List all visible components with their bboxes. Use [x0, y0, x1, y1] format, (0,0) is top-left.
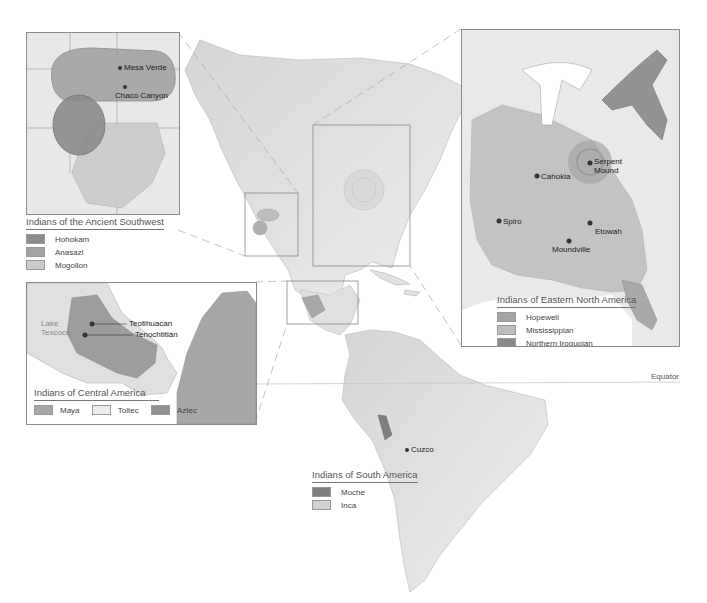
- site-serpent-mound: SerpentMound: [594, 157, 622, 175]
- equator-label: Equator: [651, 372, 679, 381]
- site-mesa-verde: Mesa Verde: [124, 63, 167, 72]
- legend-item-inca: Inca: [312, 499, 418, 511]
- lake-texcoco-label: LakeTexcoco: [41, 319, 70, 337]
- legend-title: Indians of South America: [312, 469, 418, 483]
- legend-item-moche: Moche: [312, 486, 418, 498]
- legend-ancient-southwest: Indians of the Ancient Southwest Hohokam…: [26, 216, 164, 272]
- swatch-mississippian: [497, 325, 516, 335]
- legend-eastern-north-america: Indians of Eastern North America Hopewel…: [497, 294, 636, 347]
- legend-title: Indians of Eastern North America: [497, 294, 636, 308]
- inset-central-america: Teotihuacan Tenochtitlán LakeTexcoco Ind…: [26, 282, 257, 425]
- legend-central-america: Indians of Central America Maya Toltec A…: [34, 387, 207, 417]
- swatch-northern-iroquoian: [497, 338, 516, 347]
- site-cuzco: Cuzco: [411, 445, 434, 454]
- hohokam-region: [53, 95, 105, 155]
- legend-label: Inca: [341, 501, 356, 510]
- legend-item-hohokam: Hohokam: [26, 233, 164, 245]
- legend-south-america: Indians of South America Moche Inca: [312, 469, 418, 512]
- swatch-maya: [34, 405, 53, 415]
- legend-label: Hohokam: [55, 235, 89, 244]
- legend-label: Maya: [60, 406, 80, 415]
- legend-item-mogollon: Mogollon: [26, 259, 164, 271]
- legend-item-mississippian: Mississippian: [497, 324, 636, 336]
- mississippian-region: [470, 105, 647, 292]
- site-spiro: Spiro: [503, 217, 522, 226]
- site-tenochtitlan: Tenochtitlán: [135, 330, 178, 339]
- north-america-landmass: [185, 40, 470, 310]
- swatch-toltec: [92, 405, 111, 415]
- legend-item-maya: Maya: [34, 404, 80, 416]
- inset-ancient-southwest: Mesa Verde Chaco Canyon: [26, 32, 180, 215]
- legend-label: Northern Iroquoian: [526, 339, 593, 348]
- legend-item-hopewell: Hopewell: [497, 311, 636, 323]
- legend-label: Aztec: [177, 406, 197, 415]
- legend-title: Indians of Central America: [34, 387, 159, 401]
- legend-label: Hopewell: [526, 313, 559, 322]
- site-moundville: Moundville: [552, 245, 590, 254]
- northern-iroquoian-region: [602, 50, 667, 140]
- swatch-inca: [312, 500, 331, 510]
- swatch-anasazi: [26, 247, 45, 257]
- legend-item-toltec: Toltec: [92, 404, 139, 416]
- site-chaco-canyon: Chaco Canyon: [115, 91, 168, 100]
- swatch-moche: [312, 487, 331, 497]
- site-etowah: Etowah: [595, 227, 622, 236]
- legend-label: Anasazi: [55, 248, 83, 257]
- swatch-mogollon: [26, 260, 45, 270]
- caribbean-islands: [370, 270, 420, 296]
- swatch-hohokam: [26, 234, 45, 244]
- south-america-landmass: [342, 330, 548, 592]
- site-cahokia: Cahokia: [541, 172, 570, 181]
- legend-item-aztec: Aztec: [151, 404, 197, 416]
- legend-title: Indians of the Ancient Southwest: [26, 216, 164, 230]
- legend-item-northern-iroquoian: Northern Iroquoian: [497, 337, 636, 347]
- legend-item-anasazi: Anasazi: [26, 246, 164, 258]
- legend-label: Moche: [341, 488, 365, 497]
- southwest-map: [27, 33, 179, 214]
- legend-label: Toltec: [118, 406, 139, 415]
- inset-eastern-north-america: SerpentMound Cahokia Spiro Etowah Moundv…: [461, 29, 680, 347]
- swatch-aztec: [151, 405, 170, 415]
- swatch-hopewell: [497, 312, 516, 322]
- legend-label: Mogollon: [55, 261, 87, 270]
- site-teotihuacan: Teotihuacan: [129, 319, 172, 328]
- legend-label: Mississippian: [526, 326, 574, 335]
